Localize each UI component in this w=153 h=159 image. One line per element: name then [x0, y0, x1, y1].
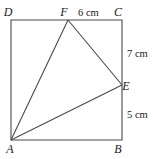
- measurement-label-fc: 6 cm: [78, 7, 99, 18]
- vertex-label-e: E: [121, 79, 130, 93]
- vertex-label-f: F: [59, 5, 68, 19]
- measurement-label-ce: 7 cm: [127, 48, 148, 59]
- vertex-label-c: C: [114, 5, 123, 19]
- geometry-svg: A B C D E F 6 cm 7 cm 5 cm: [0, 0, 153, 159]
- measurement-label-eb: 5 cm: [127, 109, 148, 120]
- segment-f-e: [68, 20, 122, 85]
- vertex-label-b: B: [114, 142, 122, 156]
- geometry-figure: A B C D E F 6 cm 7 cm 5 cm: [0, 0, 153, 159]
- segment-a-e: [11, 85, 122, 140]
- vertex-label-d: D: [3, 5, 13, 19]
- square-abcd: [11, 20, 122, 140]
- segment-a-f: [11, 20, 68, 140]
- vertex-label-a: A: [5, 142, 14, 156]
